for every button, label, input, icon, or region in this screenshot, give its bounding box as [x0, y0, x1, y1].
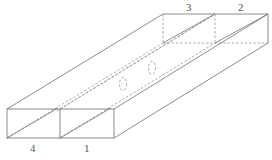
left-channel-diagonal-back — [163, 14, 215, 43]
label-channel-1: 1 — [84, 142, 90, 154]
label-channel-3: 3 — [186, 1, 192, 13]
label-channel-2: 2 — [238, 1, 244, 13]
duct-diagram: 4 1 3 2 — [0, 0, 272, 160]
hole-1 — [120, 78, 127, 91]
right-channel-diagonal-front — [60, 108, 111, 138]
right-channel-diagonal-back — [215, 14, 268, 43]
hidden-edges — [7, 14, 268, 138]
top-left-edge — [7, 14, 163, 109]
label-channel-4: 4 — [30, 142, 36, 154]
left-channel-diagonal-front — [7, 108, 58, 138]
front-face — [7, 109, 114, 138]
visible-edges — [7, 14, 268, 138]
hole-2 — [149, 62, 156, 75]
